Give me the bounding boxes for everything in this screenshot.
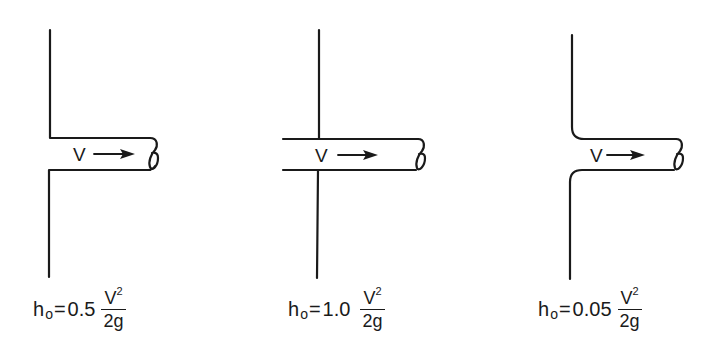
panel-reentrant: V <box>283 30 425 278</box>
head-loss-subscript: o <box>300 307 308 321</box>
fraction-numerator: V2 <box>360 288 384 310</box>
numerator-symbol: V <box>104 288 116 308</box>
pipe-break-icon <box>416 139 425 169</box>
velocity-label: V <box>315 145 328 166</box>
loss-coefficient: 1.0 <box>323 299 351 319</box>
exponent: 2 <box>116 285 122 297</box>
numerator-symbol: V <box>621 288 633 308</box>
velocity-head-fraction: V2 2g <box>618 288 642 330</box>
numerator-symbol: V <box>363 288 375 308</box>
head-loss-symbol: h <box>538 299 549 319</box>
wall-upper <box>50 30 150 138</box>
head-loss-symbol: h <box>33 299 44 319</box>
loss-coefficient: 0.05 <box>573 299 612 319</box>
velocity-head-fraction: V2 2g <box>101 288 125 330</box>
fraction-numerator: V2 <box>618 288 642 310</box>
fraction-denominator: 2g <box>362 310 382 330</box>
pipe-break-icon <box>149 138 158 169</box>
wall-lower <box>49 170 150 277</box>
head-loss-subscript: o <box>45 307 53 321</box>
fraction-denominator: 2g <box>103 310 123 330</box>
equals-sign: = <box>309 299 321 319</box>
panel-rounded: V <box>570 35 683 279</box>
loss-coefficient: 0.5 <box>68 299 96 319</box>
velocity-label: V <box>590 145 603 166</box>
formula-rounded: h o = 0.05 V2 2g <box>538 288 642 330</box>
wall-lower <box>317 170 318 278</box>
panel-square-edged: V <box>49 30 158 277</box>
wall-lower <box>570 170 674 279</box>
formula-square-edged: h o = 0.5 V2 2g <box>33 288 126 330</box>
velocity-label: V <box>73 144 86 165</box>
pipe-break-icon <box>674 139 683 169</box>
exponent: 2 <box>375 285 381 297</box>
equals-sign: = <box>559 299 571 319</box>
equals-sign: = <box>54 299 66 319</box>
head-loss-subscript: o <box>550 307 558 321</box>
fraction-denominator: 2g <box>620 310 640 330</box>
wall-upper <box>572 35 676 139</box>
velocity-head-fraction: V2 2g <box>360 288 384 330</box>
fraction-numerator: V2 <box>101 288 125 310</box>
head-loss-symbol: h <box>288 299 299 319</box>
formula-reentrant: h o = 1.0 V2 2g <box>288 288 385 330</box>
exponent: 2 <box>633 285 639 297</box>
